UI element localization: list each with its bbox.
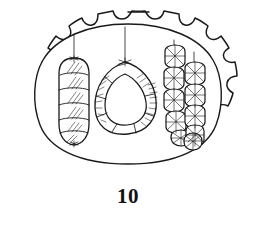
figure-container: 10 <box>0 0 256 229</box>
rod-chromosome-icon <box>59 56 89 147</box>
figure-caption: 10 <box>0 186 256 207</box>
